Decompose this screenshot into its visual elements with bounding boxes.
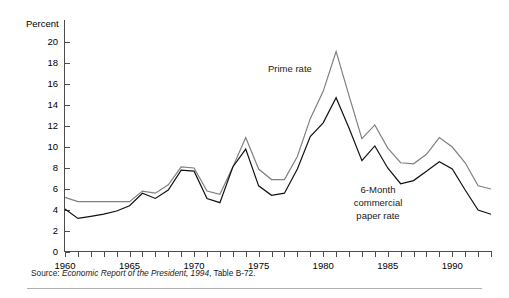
commercial-paper-annotation-line3: paper rate [356,210,399,221]
commercial-paper-line [65,98,491,219]
y-axis-tick-labels: 02468101214161820 [47,36,58,257]
series-annotations-group: Prime rate 6-Month commercial paper rate [268,63,402,221]
source-title: Economic Report of the President, 1994 [62,268,209,278]
y-tick-label: 20 [47,36,58,47]
y-tick-label: 18 [47,57,58,68]
y-axis-title-group: Percent [26,18,59,29]
x-tick-label: 1980 [313,260,334,271]
y-tick-label: 2 [53,225,58,236]
series-lines-group [65,51,491,218]
prime-rate-annotation: Prime rate [268,63,312,74]
bottom-divider [27,288,482,289]
commercial-paper-annotation-line2: commercial [354,197,403,208]
y-tick-label: 8 [53,162,58,173]
y-tick-label: 6 [53,183,58,194]
source-note: Source: Economic Report of the President… [31,268,255,278]
source-tail: , Table B-72. [209,268,255,278]
interest-rates-figure: Percent 02468101214161820 19601965197019… [0,0,509,298]
commercial-paper-annotation-line1: 6-Month [361,184,396,195]
y-tick-label: 14 [47,99,58,110]
x-tick-label: 1990 [442,260,463,271]
source-label: Source: [31,268,60,278]
y-axis-title: Percent [26,18,59,29]
y-tick-label: 4 [53,204,58,215]
y-tick-label: 12 [47,120,58,131]
line-chart: Percent 02468101214161820 19601965197019… [0,0,509,298]
y-tick-label: 10 [47,141,58,152]
x-tick-label: 1985 [377,260,398,271]
x-axis-tick-marks [66,252,492,257]
y-tick-label: 16 [47,78,58,89]
y-axis-tick-marks [65,43,70,253]
y-tick-label: 0 [53,246,58,257]
